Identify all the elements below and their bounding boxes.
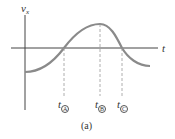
t-axis-label-text: t bbox=[162, 42, 165, 54]
circled-c-icon: C bbox=[120, 105, 128, 113]
y-axis-label: vx bbox=[21, 3, 29, 16]
t-axis-label: t bbox=[162, 43, 165, 54]
circled-a-icon: A bbox=[61, 105, 69, 113]
marker-label-c: tC bbox=[117, 99, 128, 113]
y-axis-label-sub: x bbox=[26, 8, 29, 16]
circled-b-icon: B bbox=[98, 105, 106, 113]
marker-label-a: tA bbox=[58, 99, 69, 113]
chart-svg bbox=[0, 0, 175, 139]
marker-label-b: tB bbox=[95, 99, 106, 113]
figure-caption: (a) bbox=[81, 120, 92, 131]
